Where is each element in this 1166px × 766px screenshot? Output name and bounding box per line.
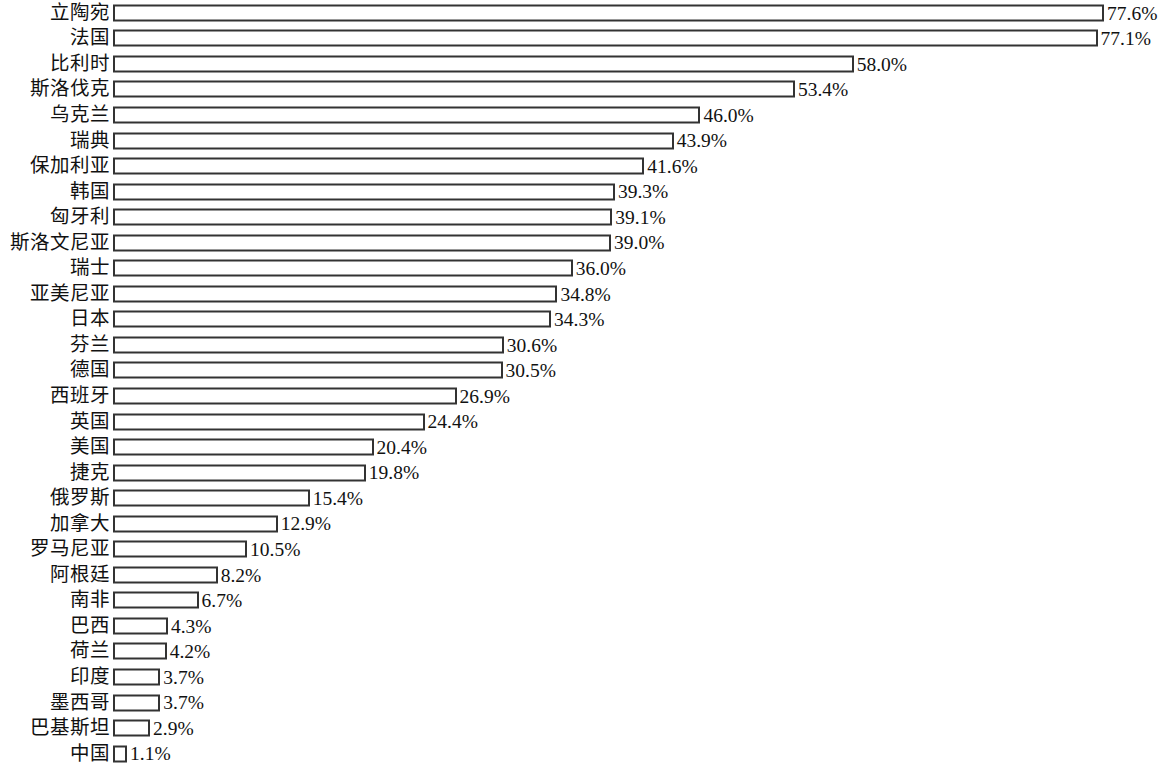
category-label: 美国 <box>70 437 110 457</box>
category-label: 保加利亚 <box>30 156 110 176</box>
value-label: 30.5% <box>506 361 556 381</box>
value-label: 1.1% <box>130 744 171 764</box>
category-label: 匈牙利 <box>50 207 110 227</box>
bar-track: 30.6% <box>113 336 557 353</box>
bar <box>113 464 366 481</box>
bar-track: 77.6% <box>113 4 1157 21</box>
value-label: 77.1% <box>1101 29 1151 49</box>
bar-row: 俄罗斯15.4% <box>0 485 1166 511</box>
bar-row: 法国77.1% <box>0 26 1166 52</box>
bar-row: 南非6.7% <box>0 588 1166 614</box>
bar <box>113 311 551 328</box>
category-label: 阿根廷 <box>50 565 110 585</box>
bar-row: 斯洛伐克53.4% <box>0 77 1166 103</box>
category-label: 墨西哥 <box>50 693 110 713</box>
value-label: 53.4% <box>798 80 848 100</box>
value-label: 2.9% <box>153 718 194 738</box>
category-label: 瑞士 <box>70 258 110 278</box>
category-label: 德国 <box>70 361 110 381</box>
bar-track: 53.4% <box>113 81 848 98</box>
bar-track: 6.7% <box>113 592 242 609</box>
category-label: 法国 <box>70 29 110 49</box>
value-label: 46.0% <box>703 105 753 125</box>
value-label: 30.6% <box>507 335 557 355</box>
bar-row: 德国30.5% <box>0 358 1166 384</box>
bar <box>113 183 615 200</box>
value-label: 39.3% <box>618 182 668 202</box>
bar-track: 20.4% <box>113 439 427 456</box>
category-label: 罗马尼亚 <box>30 540 110 560</box>
bar-track: 8.2% <box>113 566 261 583</box>
category-label: 斯洛文尼亚 <box>10 233 110 253</box>
bar-row: 立陶宛77.6% <box>0 0 1166 26</box>
bar-track: 34.3% <box>113 311 604 328</box>
bar <box>113 132 674 149</box>
value-label: 8.2% <box>221 565 262 585</box>
bar-row: 捷克19.8% <box>0 460 1166 486</box>
bar <box>113 387 457 404</box>
bar-row: 巴基斯坦2.9% <box>0 715 1166 741</box>
bar-track: 30.5% <box>113 362 556 379</box>
bar-row: 韩国39.3% <box>0 179 1166 205</box>
bar-row: 英国24.4% <box>0 409 1166 435</box>
bar-row: 斯洛文尼亚39.0% <box>0 230 1166 256</box>
category-label: 荷兰 <box>70 642 110 662</box>
bar-row: 阿根廷8.2% <box>0 562 1166 588</box>
bar-track: 39.0% <box>113 234 664 251</box>
value-label: 39.1% <box>615 207 665 227</box>
category-label: 日本 <box>70 310 110 330</box>
bar-track: 12.9% <box>113 515 331 532</box>
bar-row: 中国1.1% <box>0 741 1166 766</box>
value-label: 15.4% <box>313 488 363 508</box>
category-label: 西班牙 <box>50 386 110 406</box>
bar-track: 46.0% <box>113 106 754 123</box>
bar-row: 比利时58.0% <box>0 51 1166 77</box>
value-label: 77.6% <box>1107 3 1157 23</box>
bar-track: 3.7% <box>113 668 204 685</box>
value-label: 34.3% <box>554 310 604 330</box>
bar <box>113 234 611 251</box>
category-label: 斯洛伐克 <box>30 80 110 100</box>
bar <box>113 592 199 609</box>
bar-row: 瑞士36.0% <box>0 255 1166 281</box>
bar <box>113 81 795 98</box>
bar-row: 日本34.3% <box>0 307 1166 333</box>
value-label: 4.2% <box>170 642 211 662</box>
bar-row: 印度3.7% <box>0 664 1166 690</box>
bar-track: 58.0% <box>113 55 907 72</box>
category-label: 巴西 <box>70 616 110 636</box>
bar-track: 26.9% <box>113 387 510 404</box>
bar <box>113 30 1098 47</box>
category-label: 英国 <box>70 412 110 432</box>
bar-track: 3.7% <box>113 694 204 711</box>
bar-row: 保加利亚41.6% <box>0 153 1166 179</box>
bar <box>113 362 503 379</box>
bar-track: 77.1% <box>113 30 1151 47</box>
value-label: 6.7% <box>202 591 243 611</box>
bar <box>113 336 504 353</box>
category-label: 比利时 <box>50 54 110 74</box>
bar-row: 巴西4.3% <box>0 613 1166 639</box>
value-label: 41.6% <box>647 156 697 176</box>
bar <box>113 209 612 226</box>
category-label: 捷克 <box>70 463 110 483</box>
bar <box>113 745 127 762</box>
bar-row: 加拿大12.9% <box>0 511 1166 537</box>
bar-track: 24.4% <box>113 413 478 430</box>
bar-track: 1.1% <box>113 745 171 762</box>
category-label: 加拿大 <box>50 514 110 534</box>
bar <box>113 490 310 507</box>
bar-track: 39.1% <box>113 209 666 226</box>
value-label: 3.7% <box>163 693 204 713</box>
value-label: 3.7% <box>163 667 204 687</box>
bar <box>113 439 374 456</box>
bar <box>113 106 700 123</box>
value-label: 43.9% <box>677 131 727 151</box>
bar-row: 芬兰30.6% <box>0 332 1166 358</box>
bar <box>113 413 425 430</box>
category-label: 韩国 <box>70 182 110 202</box>
bar <box>113 285 557 302</box>
bar <box>113 617 168 634</box>
bar-row: 匈牙利39.1% <box>0 204 1166 230</box>
